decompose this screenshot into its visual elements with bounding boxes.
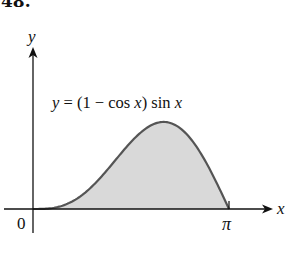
chart: y x 0 π y = (1 − cos x) sin x: [0, 0, 294, 274]
equation-label: y = (1 − cos x) sin x: [50, 93, 183, 112]
x-tick-label-0: 0: [17, 214, 26, 233]
x-axis-label: x: [276, 199, 285, 218]
y-axis-label: y: [26, 27, 36, 46]
x-tick-label-pi: π: [222, 214, 232, 234]
shaded-area-under-curve: [33, 122, 229, 209]
